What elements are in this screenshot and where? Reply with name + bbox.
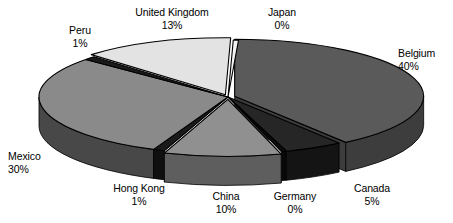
pie-slice-side-wall (164, 153, 281, 185)
slice-label-name: Peru (69, 24, 91, 37)
slice-label-value: 40% (398, 60, 435, 73)
slice-label-mexico: Mexico30% (8, 150, 41, 175)
slice-label-hong-kong: Hong Kong1% (113, 182, 165, 207)
slice-label-name: Hong Kong (113, 182, 165, 195)
slice-label-value: 13% (135, 19, 208, 32)
slice-label-united-kingdom: United Kingdom13% (135, 6, 208, 31)
slice-label-peru: Peru1% (69, 24, 91, 49)
slice-label-name: United Kingdom (135, 6, 208, 19)
slice-label-name: China (213, 190, 240, 203)
slice-label-name: Mexico (8, 150, 41, 163)
slice-label-value: 5% (354, 195, 390, 208)
pie-slice-side-wall (154, 149, 165, 179)
slice-label-name: Canada (354, 182, 390, 195)
slice-label-japan: Japan0% (268, 6, 296, 31)
slice-label-canada: Canada5% (354, 182, 390, 207)
slice-label-value: 1% (69, 37, 91, 50)
slice-label-germany: Germany0% (274, 190, 316, 215)
slice-label-belgium: Belgium40% (398, 47, 435, 72)
pie-chart-figure: United Kingdom13%Japan0%Peru1%Belgium40%… (0, 0, 453, 223)
slice-label-china: China10% (213, 190, 240, 215)
slice-label-value: 0% (268, 19, 296, 32)
slice-label-name: Japan (268, 6, 296, 19)
slice-label-value: 30% (8, 163, 41, 176)
pie-slice-side-wall (281, 151, 286, 180)
slice-label-value: 0% (274, 203, 316, 216)
slice-label-value: 1% (113, 195, 165, 208)
slice-label-name: Germany (274, 190, 316, 203)
slice-label-value: 10% (213, 203, 240, 216)
slice-label-name: Belgium (398, 47, 435, 60)
